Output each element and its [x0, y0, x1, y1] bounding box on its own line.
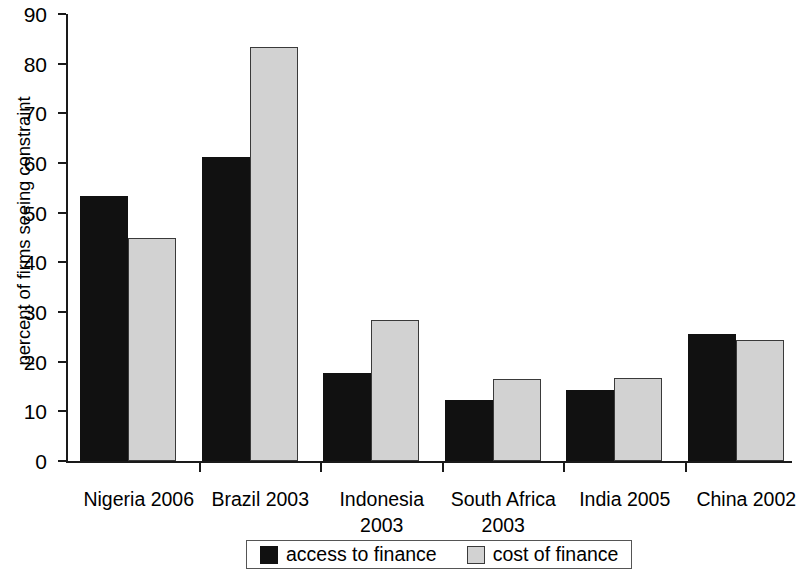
x-axis-separator-tick [442, 463, 444, 472]
bar-cost-5 [736, 340, 784, 461]
gray-square-swatch [467, 546, 485, 564]
x-axis-separator-tick [685, 463, 687, 472]
legend-label: access to finance [286, 545, 437, 565]
y-axis-tick-label: 80 [0, 53, 47, 74]
y-axis-title: percent of firms seeing constraint [13, 21, 35, 441]
y-axis-tick-label: 20 [0, 351, 47, 372]
y-axis-tick-label: 90 [0, 4, 47, 25]
y-axis-tick [58, 63, 66, 65]
bar-cost-0 [128, 238, 176, 461]
bar-access-5 [688, 334, 736, 461]
bar-cost-3 [493, 379, 541, 461]
x-axis-category-label: South Africa 2003 [443, 487, 565, 538]
x-axis-category-label: Brazil 2003 [200, 487, 322, 513]
y-axis-tick-label: 60 [0, 153, 47, 174]
legend-label: cost of finance [493, 545, 619, 565]
y-axis-tick [58, 212, 66, 214]
bar-cost-1 [250, 47, 298, 461]
y-axis-tick [58, 361, 66, 363]
bar-cost-4 [614, 378, 662, 461]
y-axis-tick [58, 261, 66, 263]
y-axis-tick [58, 112, 66, 114]
bar-cost-2 [371, 320, 419, 461]
black-square-swatch [260, 546, 278, 564]
x-axis-line [66, 461, 792, 463]
y-axis-tick-label: 50 [0, 202, 47, 223]
legend-entry-cost: cost of finance [467, 545, 619, 565]
y-axis-tick [58, 13, 66, 15]
y-axis-tick [58, 460, 66, 462]
bar-access-3 [445, 400, 493, 461]
x-axis-category-label: China 2002 [686, 487, 801, 513]
x-axis-separator-tick [563, 463, 565, 472]
bar-access-1 [202, 157, 250, 461]
plot-area: 0102030405060708090 Nigeria 2006Brazil 2… [66, 14, 792, 461]
x-axis-category-label: India 2005 [564, 487, 686, 513]
bar-access-0 [80, 196, 128, 461]
y-axis-tick [58, 162, 66, 164]
y-axis-tick [58, 410, 66, 412]
chart-legend: access to financecost of finance [246, 540, 632, 569]
bar-chart-figure: percent of firms seeing constraint 01020… [0, 0, 801, 571]
y-axis-tick-label: 0 [0, 451, 47, 472]
bar-access-4 [566, 390, 614, 461]
x-axis-separator-tick [320, 463, 322, 472]
y-axis-tick-label: 10 [0, 401, 47, 422]
y-axis-tick-label: 70 [0, 103, 47, 124]
bar-access-2 [323, 373, 371, 461]
x-axis-separator-tick [199, 463, 201, 472]
y-axis-tick-label: 30 [0, 302, 47, 323]
y-axis-tick [58, 311, 66, 313]
y-axis-line [66, 14, 68, 461]
x-axis-category-label: Nigeria 2006 [78, 487, 200, 513]
y-axis-tick-label: 40 [0, 252, 47, 273]
legend-entry-access: access to finance [260, 545, 437, 565]
x-axis-category-label: Indonesia 2003 [321, 487, 443, 538]
